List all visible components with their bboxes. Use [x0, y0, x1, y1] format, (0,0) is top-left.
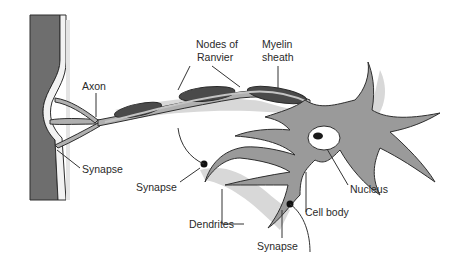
label-dendrites: Dendrites	[189, 218, 234, 230]
label-myelin-1: Myelin	[262, 38, 293, 50]
nucleus	[308, 126, 340, 150]
label-axon: Axon	[82, 80, 106, 92]
label-synapse-bottom: Synapse	[257, 240, 298, 252]
label-synapse-left: Synapse	[82, 163, 123, 175]
target-cell	[30, 15, 70, 200]
label-myelin-2: sheath	[262, 51, 294, 63]
neuron-diagram: Axon Nodes of Ranvier Myelin sheath Syna…	[0, 0, 464, 271]
label-nodes-of-ranvier-1: Nodes of	[196, 38, 238, 50]
label-nucleus: Nucleus	[350, 183, 388, 195]
label-cell-body: Cell body	[305, 206, 350, 218]
label-synapse-middle: Synapse	[136, 181, 177, 193]
label-nodes-of-ranvier-2: Ranvier	[197, 51, 234, 63]
